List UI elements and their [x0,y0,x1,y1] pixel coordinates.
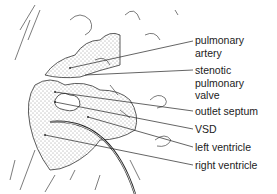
label-line: stenotic [195,64,244,77]
label-line: valve [195,89,244,102]
label-line: pulmonary [195,34,244,47]
label-left-ventricle: left ventricle [195,141,251,154]
label-line: artery [195,47,244,60]
label-line: outlet septum [195,105,258,118]
label-vsd: VSD [195,123,217,136]
label-line: VSD [195,123,217,136]
label-right-ventricle: right ventricle [195,159,257,172]
label-stenotic-pulmonary-valve: stenotic pulmonary valve [195,64,244,102]
label-pulmonary-artery: pulmonary artery [195,34,244,59]
label-line: left ventricle [195,141,251,154]
label-line: pulmonary [195,77,244,90]
heart-diagram: pulmonary artery stenotic pulmonary valv… [0,0,277,194]
label-outlet-septum: outlet septum [195,105,258,118]
label-line: right ventricle [195,159,257,172]
